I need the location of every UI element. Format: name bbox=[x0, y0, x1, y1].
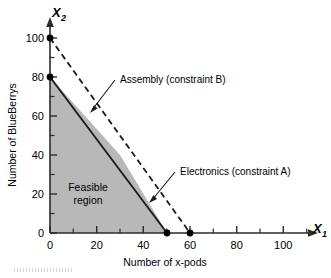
y-axis-symbol-subscript: 2 bbox=[60, 13, 66, 23]
chart-figure: X 2 X 1 0 20 40 60 80 100 0 20 40 60 80 … bbox=[0, 0, 331, 278]
assembly-annotation-label: Assembly (constraint B) bbox=[120, 74, 226, 85]
point-60-0 bbox=[187, 230, 194, 237]
point-50-0 bbox=[164, 230, 171, 237]
y-axis-tick-labels: 0 20 40 60 80 100 bbox=[26, 32, 44, 239]
x-axis-tick-labels: 0 20 40 60 80 100 bbox=[47, 239, 293, 251]
y-tick-label: 60 bbox=[32, 110, 44, 122]
y-tick-label: 40 bbox=[32, 149, 44, 161]
x-tick-label: 100 bbox=[274, 239, 292, 251]
assembly-leader-line bbox=[92, 80, 115, 110]
x-tick-label: 60 bbox=[184, 239, 196, 251]
x-axis-symbol-subscript: 1 bbox=[322, 229, 327, 239]
x-tick-label: 20 bbox=[91, 239, 103, 251]
feasible-region-label-line2: region bbox=[73, 194, 102, 206]
y-axis-title: Number of BlueBerrys bbox=[6, 83, 18, 186]
point-0-100 bbox=[47, 35, 54, 42]
x-tick-label: 0 bbox=[47, 239, 53, 251]
lp-graph-svg: X 2 X 1 0 20 40 60 80 100 0 20 40 60 80 … bbox=[0, 0, 331, 278]
y-tick-label: 80 bbox=[32, 71, 44, 83]
y-tick-label: 20 bbox=[32, 188, 44, 200]
feasible-region-label-line1: Feasible bbox=[68, 181, 108, 193]
assembly-leader-arrowhead bbox=[90, 105, 98, 113]
x-tick-label: 80 bbox=[231, 239, 243, 251]
x-axis-title: Number of x-pods bbox=[123, 256, 206, 268]
y-tick-label: 100 bbox=[26, 32, 44, 44]
electronics-annotation-label: Electronics (constraint A) bbox=[180, 166, 291, 177]
y-tick-label: 0 bbox=[38, 227, 44, 239]
x-tick-label: 40 bbox=[137, 239, 149, 251]
point-0-80 bbox=[47, 74, 54, 81]
scan-artifact-marks bbox=[14, 268, 74, 272]
